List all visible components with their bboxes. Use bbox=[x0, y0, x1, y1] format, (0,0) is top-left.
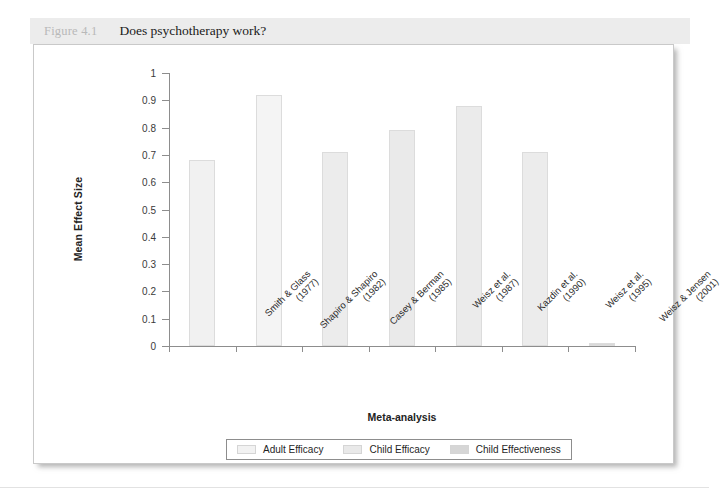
y-axis-tick bbox=[162, 100, 169, 101]
figure-title: Does psychotherapy work? bbox=[97, 23, 266, 39]
figure-number-label: Figure 4.1 bbox=[30, 24, 97, 39]
y-axis-tick-label: 0.9 bbox=[96, 95, 156, 106]
page-bottom-rule bbox=[0, 487, 709, 488]
y-axis-tick bbox=[162, 346, 169, 347]
y-axis-tick bbox=[162, 210, 169, 211]
y-axis-tick-label: 0.4 bbox=[96, 231, 156, 242]
y-axis-tick-label: 0.6 bbox=[96, 177, 156, 188]
y-axis-tick bbox=[162, 291, 169, 292]
chart-legend: Adult EfficacyChild EfficacyChild Effect… bbox=[226, 439, 572, 460]
plot-area: Mean Effect Size 10.90.80.70.60.50.40.30… bbox=[34, 45, 675, 465]
y-axis-tick bbox=[162, 264, 169, 265]
y-axis-tick-label: 0.2 bbox=[96, 286, 156, 297]
y-axis-tick-label: 0.7 bbox=[96, 149, 156, 160]
y-axis-tick bbox=[162, 182, 169, 183]
y-axis-tick bbox=[162, 155, 169, 156]
y-axis-tick-label: 0.8 bbox=[96, 122, 156, 133]
legend-label: Child Effectiveness bbox=[476, 444, 561, 455]
y-axis-tick-label: 0.5 bbox=[96, 204, 156, 215]
bar bbox=[189, 160, 215, 346]
chart-frame: Mean Effect Size 10.90.80.70.60.50.40.30… bbox=[33, 44, 674, 464]
legend-item: Child Efficacy bbox=[343, 444, 429, 455]
legend-label: Adult Efficacy bbox=[263, 444, 323, 455]
y-axis-tick bbox=[162, 319, 169, 320]
legend-swatch bbox=[450, 445, 469, 454]
legend-swatch bbox=[237, 445, 256, 454]
legend-swatch bbox=[343, 445, 362, 454]
y-axis-tick-label: 1 bbox=[96, 68, 156, 79]
y-axis-tick-label: 0.3 bbox=[96, 259, 156, 270]
x-axis-title: Meta-analysis bbox=[169, 411, 635, 423]
y-axis-title: Mean Effect Size bbox=[72, 139, 84, 299]
y-axis-tick bbox=[162, 128, 169, 129]
y-axis-tick-label: 0 bbox=[96, 341, 156, 352]
legend-label: Child Efficacy bbox=[369, 444, 429, 455]
y-axis-tick-label: 0.1 bbox=[96, 313, 156, 324]
y-axis-tick bbox=[162, 237, 169, 238]
legend-item: Child Effectiveness bbox=[450, 444, 561, 455]
legend-item: Adult Efficacy bbox=[237, 444, 323, 455]
y-axis-tick bbox=[162, 73, 169, 74]
figure-caption-band: Figure 4.1 Does psychotherapy work? bbox=[30, 18, 690, 44]
x-axis-tick bbox=[169, 346, 170, 352]
